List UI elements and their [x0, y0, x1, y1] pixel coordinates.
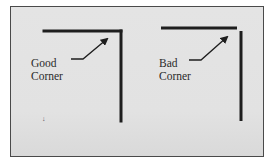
bad-corner-label: Bad Corner: [159, 57, 191, 83]
bad-corner-arrow: [189, 37, 227, 60]
good-corner-label: Good Corner: [31, 57, 63, 83]
diagram-panel: Good Corner Bad Corner ↓: [10, 6, 264, 157]
stray-mark: ↓: [42, 115, 46, 123]
good-corner-arrow: [71, 39, 107, 59]
